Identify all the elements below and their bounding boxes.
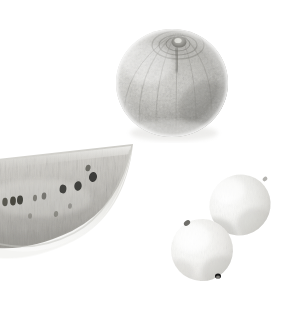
fruit-illustration-canvas xyxy=(0,0,304,321)
lemon-front-blossom-end-core xyxy=(216,275,220,278)
cantaloupe-rim-feather xyxy=(116,29,228,137)
still-life-scene: Fruit Still Life xyxy=(0,0,304,321)
